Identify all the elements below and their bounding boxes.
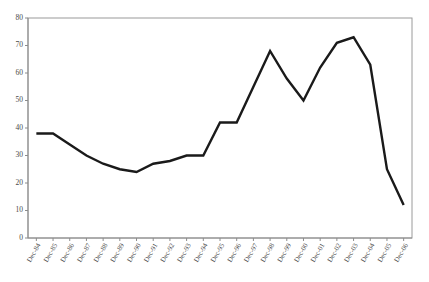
- y-tick-label: 70: [16, 40, 24, 49]
- x-tick-label: Dec-92: [159, 242, 176, 264]
- x-tick-label: Dec-85: [42, 242, 59, 264]
- x-tick-label: Dec-05: [376, 242, 393, 264]
- x-tick-label: Dec-03: [343, 242, 360, 264]
- x-tick-label: Dec-86: [59, 242, 76, 264]
- y-tick-label: 0: [19, 233, 23, 242]
- y-tick-label: 80: [16, 13, 24, 22]
- x-tick-label: Dec-93: [176, 242, 193, 264]
- x-tick-label: Dec-94: [192, 242, 209, 264]
- x-tick-label: Dec-06: [393, 242, 410, 264]
- x-tick-label: Dec-00: [292, 242, 309, 264]
- x-axis-labels: Dec-84Dec-85Dec-86Dec-87Dec-88Dec-89Dec-…: [25, 242, 410, 264]
- y-tick-label: 60: [16, 68, 24, 77]
- y-tick-label: 50: [16, 95, 24, 104]
- x-tick-label: Dec-89: [109, 242, 126, 264]
- x-tick-label: Dec-90: [126, 242, 143, 264]
- x-tick-label: Dec-04: [359, 242, 376, 264]
- x-tick-label: Dec-84: [25, 242, 42, 264]
- y-tick-label: 20: [16, 178, 24, 187]
- y-tick-label: 10: [16, 205, 24, 214]
- x-tick-label: Dec-91: [142, 242, 159, 264]
- x-tick-label: Dec-97: [242, 242, 259, 264]
- y-tick-label: 30: [16, 150, 24, 159]
- y-axis-labels: 01020304050607080: [16, 13, 24, 242]
- plot-frame: [28, 18, 412, 238]
- x-tick-label: Dec-88: [92, 242, 109, 264]
- line-chart: Dec-84Dec-85Dec-86Dec-87Dec-88Dec-89Dec-…: [0, 0, 429, 282]
- plot-area-border: [28, 18, 412, 238]
- x-tick-label: Dec-96: [226, 242, 243, 264]
- x-tick-label: Dec-02: [326, 242, 343, 264]
- x-tick-label: Dec-95: [209, 242, 226, 264]
- y-tick-label: 40: [16, 123, 24, 132]
- chart-container: Dec-84Dec-85Dec-86Dec-87Dec-88Dec-89Dec-…: [0, 0, 429, 282]
- series-line: [36, 37, 403, 205]
- x-tick-label: Dec-98: [259, 242, 276, 264]
- x-tick-label: Dec-99: [276, 242, 293, 264]
- x-tick-label: Dec-01: [309, 242, 326, 264]
- x-tick-label: Dec-87: [75, 242, 92, 264]
- data-series: [36, 37, 403, 205]
